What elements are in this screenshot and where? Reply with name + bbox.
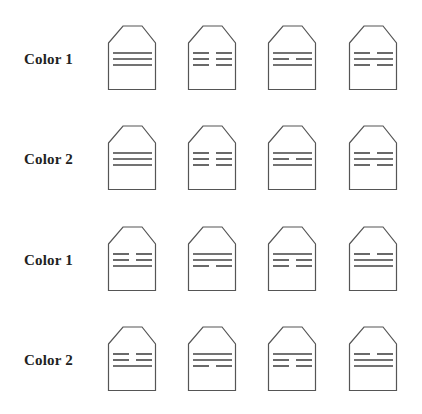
pattern-row-4: Color 2: [0, 326, 422, 414]
tag-icon: [107, 25, 157, 91]
tag-icon: [267, 326, 317, 392]
tag-icon: [107, 226, 157, 292]
tag-icon: [187, 226, 237, 292]
tag-icon: [187, 326, 237, 392]
tag-icon: [348, 25, 398, 91]
tag-icon: [187, 25, 237, 91]
tag-icon: [348, 125, 398, 191]
row-label: Color 1: [24, 51, 73, 68]
row-label: Color 2: [24, 352, 73, 369]
tag-icon: [348, 226, 398, 292]
row-label: Color 2: [24, 151, 73, 168]
tag-icon: [107, 326, 157, 392]
tag-icon: [348, 326, 398, 392]
tag-icon: [267, 25, 317, 91]
tag-icon: [267, 226, 317, 292]
pattern-row-2: Color 2: [0, 125, 422, 225]
pattern-row-1: Color 1: [0, 25, 422, 125]
tag-icon: [267, 125, 317, 191]
row-label: Color 1: [24, 252, 73, 269]
pattern-row-3: Color 1: [0, 226, 422, 326]
tag-icon: [107, 125, 157, 191]
tag-icon: [187, 125, 237, 191]
